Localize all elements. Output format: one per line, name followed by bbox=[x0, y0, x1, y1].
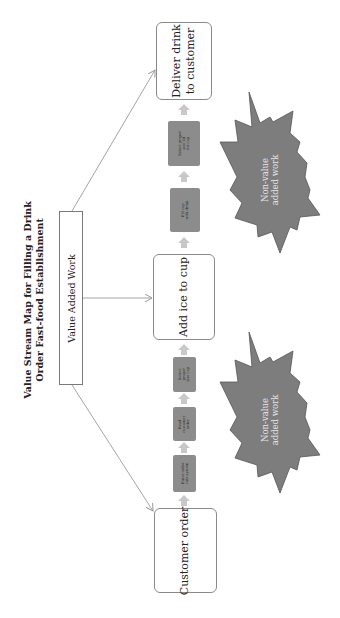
substep-label: size cup bbox=[187, 367, 191, 382]
substep-label: Select proper bbox=[178, 131, 182, 156]
flow-arrow-icon bbox=[178, 171, 190, 182]
flow-arrow-icon bbox=[178, 237, 190, 248]
substep-label: with drink bbox=[185, 201, 189, 220]
value-added-work-label: Value Added Work bbox=[66, 254, 77, 342]
flow-arrow-icon bbox=[178, 495, 190, 506]
step-label: Deliver drink bbox=[170, 24, 184, 97]
substep-label: size lid bbox=[182, 131, 186, 156]
flow-arrow-icon bbox=[178, 344, 190, 355]
step-label: to customer bbox=[184, 24, 198, 97]
connector-to-customer-order bbox=[72, 385, 153, 511]
star-label: Non-value bbox=[260, 155, 270, 206]
step-add-ice: Add ice to cup bbox=[153, 254, 215, 340]
substep-label: Fill cup bbox=[181, 201, 185, 220]
step-label: Customer order bbox=[179, 506, 193, 595]
star-label: Non-value bbox=[260, 395, 270, 446]
substep-select-lid: Select proper size lid for cup bbox=[168, 121, 200, 166]
title-line-1: Value Stream Map for Filling a Drink bbox=[22, 201, 34, 399]
substep-label: order bbox=[187, 415, 191, 432]
substep-read-order: Read customer order bbox=[173, 407, 196, 441]
step-deliver-drink: Deliver drink to customer bbox=[156, 22, 212, 100]
star-label: added work bbox=[270, 395, 280, 446]
non-value-label-lower: Non-value added work bbox=[250, 380, 290, 460]
substep-select-cup: Select proper size cup bbox=[173, 357, 196, 392]
non-value-label-upper: Non-value added work bbox=[250, 140, 290, 220]
step-label: Add ice to cup bbox=[177, 257, 191, 337]
flow-arrow-icon bbox=[178, 393, 190, 404]
substep-label: into system bbox=[185, 463, 189, 484]
star-label: added work bbox=[270, 155, 280, 206]
substep-label: for cup bbox=[186, 131, 190, 156]
substep-fill-cup: Fill cup with drink bbox=[170, 188, 200, 232]
value-added-work-box: Value Added Work bbox=[59, 211, 83, 385]
connector-to-deliver bbox=[72, 70, 155, 211]
title-line-2: Order Fast-food Establishment bbox=[34, 201, 46, 399]
flow-arrow-icon bbox=[178, 442, 190, 453]
diagram-title: Value Stream Map for Filling a Drink Ord… bbox=[14, 200, 54, 400]
flow-arrow-icon bbox=[178, 104, 190, 115]
substep-enter-order: Enter order into system bbox=[173, 455, 196, 492]
step-customer-order: Customer order bbox=[154, 508, 217, 593]
